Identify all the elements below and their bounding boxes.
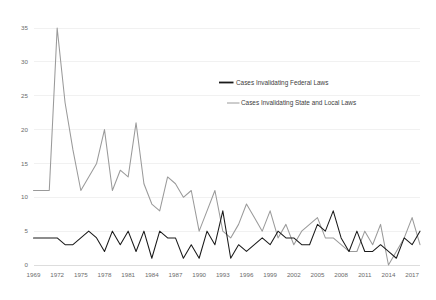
y-axis-tick-label: 25 <box>21 92 28 99</box>
gridlines <box>34 28 421 231</box>
chart-page: 05101520253035 1969197219751978198119841… <box>0 0 436 300</box>
x-axis-tick-label: 1981 <box>121 271 135 278</box>
series-line-federal <box>34 211 421 258</box>
series-line-state-local <box>34 28 421 265</box>
x-axis-tick-label: 1975 <box>74 271 88 278</box>
y-axis-tick-label: 10 <box>21 193 28 200</box>
x-axis-tick-label: 1978 <box>98 271 112 278</box>
y-axis-tick-labels: 05101520253035 <box>21 24 28 268</box>
y-axis-tick-label: 20 <box>21 126 28 133</box>
legend-label-federal: Cases Invalidating Federal Laws <box>236 79 328 87</box>
data-series <box>34 28 421 265</box>
x-axis-tick-label: 2002 <box>287 271 301 278</box>
y-axis-tick-label: 35 <box>21 24 28 31</box>
y-axis-tick-label: 5 <box>25 227 29 234</box>
x-axis-tick-label: 1990 <box>192 271 206 278</box>
chart-legend: Cases Invalidating Federal LawsCases Inv… <box>219 79 356 108</box>
y-axis-tick-label: 0 <box>25 261 29 268</box>
x-axis-tick-label: 2014 <box>382 271 396 278</box>
x-axis-tick-label: 1987 <box>169 271 183 278</box>
y-axis-tick-label: 15 <box>21 160 28 167</box>
x-axis-tick-label: 1984 <box>145 271 159 278</box>
x-axis-tick-labels: 1969197219751978198119841987199019931996… <box>27 271 420 278</box>
x-axis-tick-label: 1969 <box>27 271 41 278</box>
legend-label-state-local: Cases Invalidating State and Local Laws <box>241 99 356 107</box>
x-axis-tick-label: 1996 <box>240 271 254 278</box>
x-axis-tick-label: 2017 <box>405 271 419 278</box>
x-axis-tick-label: 1972 <box>50 271 64 278</box>
y-axis-tick-label: 30 <box>21 58 28 65</box>
x-axis-tick-label: 2005 <box>311 271 325 278</box>
x-axis-tick-label: 1999 <box>263 271 277 278</box>
x-axis-tick-label: 1993 <box>216 271 230 278</box>
x-axis-tick-label: 2008 <box>334 271 348 278</box>
line-chart: 05101520253035 1969197219751978198119841… <box>0 0 436 300</box>
x-axis-tick-label: 2011 <box>358 271 372 278</box>
